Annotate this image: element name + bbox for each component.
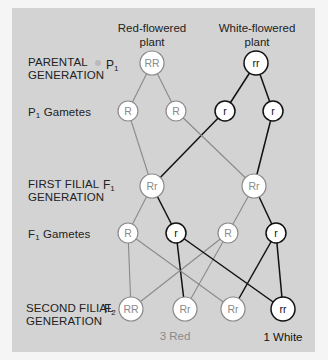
node-label: r: [271, 105, 275, 117]
node-label: r: [223, 105, 227, 117]
node-f1g_2: r: [166, 223, 186, 243]
node-p1_red: RR: [140, 51, 164, 75]
node-label: rr: [253, 57, 260, 69]
node-f1_b: Rr: [242, 174, 266, 198]
node-label: R: [172, 105, 180, 117]
node-p1g_3: r: [215, 101, 235, 121]
node-p1g_1: R: [118, 101, 138, 121]
node-f1_a: Rr: [140, 174, 164, 198]
node-label: rr: [280, 303, 287, 315]
node-f2_2: Rr: [173, 297, 197, 321]
node-label: Rr: [248, 180, 260, 192]
node-label: RR: [123, 303, 139, 315]
node-p1_white: rr: [244, 51, 268, 75]
result-white-count: 1 White: [250, 331, 316, 343]
result-red-count: 3 Red: [140, 330, 210, 342]
node-label: R: [224, 227, 232, 239]
node-label: R: [124, 105, 132, 117]
node-f2_1: RR: [119, 297, 143, 321]
node-f1g_3: R: [218, 223, 238, 243]
node-layer: RRrrRRrrRrRrRrRrRRRrRrrr: [118, 51, 295, 321]
edge-f1g_4-to-f2_3: [233, 233, 276, 309]
node-label: r: [174, 227, 178, 239]
node-label: R: [124, 227, 132, 239]
node-p1g_2: R: [166, 101, 186, 121]
node-label: Rr: [146, 180, 158, 192]
edge-p1g_3-to-f1_a: [152, 111, 225, 186]
inheritance-diagram: RRrrRRrrRrRrRrRrRRRrRrrr: [0, 0, 328, 360]
node-label: Rr: [179, 303, 191, 315]
node-f2_3: Rr: [221, 297, 245, 321]
node-label: r: [274, 227, 278, 239]
edge-f1g_3-to-f2_1: [131, 233, 228, 309]
node-label: RR: [144, 57, 160, 69]
node-p1g_4: r: [263, 101, 283, 121]
node-f1g_4: r: [266, 223, 286, 243]
node-f2_4: rr: [271, 297, 295, 321]
node-f1g_1: R: [118, 223, 138, 243]
node-label: Rr: [227, 303, 239, 315]
